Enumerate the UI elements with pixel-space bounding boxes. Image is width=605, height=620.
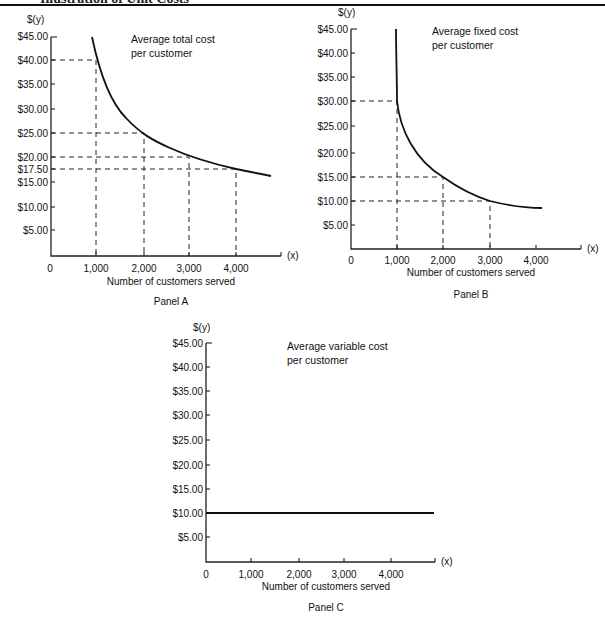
panel-c-ylabel: $(y) <box>193 322 210 333</box>
x-tick-label: 3,000 <box>176 263 201 274</box>
y-tick-label: $35.00 <box>17 79 48 90</box>
x-tick-label: 2,000 <box>430 255 455 266</box>
x-tick-label: 4,000 <box>223 263 248 274</box>
panel-b-annotation: per customer <box>432 39 494 51</box>
y-tick-label: $5.00 <box>323 220 348 231</box>
y-tick-label: $30.00 <box>172 410 203 421</box>
y-tick-label: $25.00 <box>172 435 203 446</box>
panel-c-x-axis-end-label: (x) <box>441 556 453 567</box>
panel-c-xlabel: Number of customers served <box>262 581 390 592</box>
figure-canvas: $(y) $45.00 $40.00 $35.00 $30.00 $25.00 … <box>0 0 605 620</box>
panel-b-y-tick-marks <box>351 29 357 225</box>
y-tick-label: $10.00 <box>17 202 48 213</box>
panel-c-caption: Panel C <box>308 602 344 613</box>
x-tick-label: 1,000 <box>83 263 108 274</box>
panel-a-y-ticks: $45.00 $40.00 $35.00 $30.00 $25.00 $20.0… <box>17 31 48 236</box>
panel-a-annotation: per customer <box>131 47 193 59</box>
panel-b-average-fixed-cost-curve <box>396 29 542 208</box>
panel-c-y-tick-marks <box>206 343 212 537</box>
y-tick-label: $25.00 <box>17 128 48 139</box>
x-tick-label: 4,000 <box>523 255 548 266</box>
panel-a-caption: Panel A <box>154 296 189 307</box>
y-tick-label: $20.00 <box>172 460 203 471</box>
panel-b-xlabel: Number of customers served <box>407 267 535 278</box>
x-tick-label: 0 <box>348 255 354 266</box>
y-tick-label: $25.00 <box>317 121 348 132</box>
panel-b-axes <box>351 29 581 249</box>
y-tick-label: $35.00 <box>172 386 203 397</box>
y-tick-label: $5.00 <box>178 532 203 543</box>
panel-c-axes <box>206 343 435 562</box>
y-tick-label: $45.00 <box>17 31 48 42</box>
x-tick-label: 0 <box>203 569 209 580</box>
panel-c-x-ticks: 0 1,000 2,000 3,000 4,000 Number of cust… <box>203 569 404 613</box>
y-tick-label: $45.00 <box>317 24 348 35</box>
panel-b-x-ticks: 0 1,000 2,000 3,000 4,000 Number of cust… <box>348 255 549 300</box>
y-tick-label: $17.50 <box>17 164 48 175</box>
panel-b-x-axis-end-label: (x) <box>587 243 599 254</box>
x-tick-label: 0 <box>47 263 53 274</box>
y-tick-label: $40.00 <box>17 55 48 66</box>
x-tick-label: 3,000 <box>331 569 356 580</box>
panel-b-y-ticks: $45.00 $40.00 $35.00 $30.00 $25.00 $20.0… <box>317 24 348 231</box>
x-tick-label: 3,000 <box>477 255 502 266</box>
x-tick-label: 4,000 <box>378 569 403 580</box>
panel-c-y-ticks: $45.00 $40.00 $35.00 $30.00 $25.00 $20.0… <box>172 338 203 543</box>
y-tick-label: $15.00 <box>317 172 348 183</box>
y-tick-label: $5.00 <box>23 225 48 236</box>
panel-a-annotation: Average total cost <box>131 33 215 45</box>
y-tick-label: $15.00 <box>17 177 48 188</box>
panel-b-annotation: Average fixed cost <box>432 25 518 37</box>
panel-b: $(y) $45.00 $40.00 $35.00 $30.00 $25.00 … <box>317 7 598 300</box>
y-tick-label: $30.00 <box>317 96 348 107</box>
y-tick-label: $30.00 <box>17 104 48 115</box>
panel-a: $(y) $45.00 $40.00 $35.00 $30.00 $25.00 … <box>17 14 298 307</box>
y-tick-label: $45.00 <box>172 338 203 349</box>
y-tick-label: $15.00 <box>172 484 203 495</box>
y-tick-label: $10.00 <box>172 508 203 519</box>
panel-c: $(y) $45.00 $40.00 $35.00 $30.00 $25.00 … <box>172 322 452 613</box>
x-tick-label: 2,000 <box>286 569 311 580</box>
panel-b-guide-lines <box>351 101 490 249</box>
y-tick-label: $35.00 <box>317 72 348 83</box>
panel-a-ylabel: $(y) <box>27 14 44 25</box>
x-tick-label: 2,000 <box>131 263 156 274</box>
x-tick-label: 1,000 <box>384 255 409 266</box>
panel-c-annotation: per customer <box>287 354 349 366</box>
x-tick-label: 1,000 <box>238 569 263 580</box>
panel-c-annotation: Average variable cost <box>287 340 388 352</box>
y-tick-label: $20.00 <box>17 152 48 163</box>
panel-a-guide-lines <box>51 60 236 256</box>
panel-a-xlabel: Number of customers served <box>107 276 235 287</box>
panel-b-caption: Panel B <box>453 289 488 300</box>
y-tick-label: $40.00 <box>317 48 348 59</box>
panel-a-x-axis-end-label: (x) <box>287 250 299 261</box>
y-tick-label: $20.00 <box>317 148 348 159</box>
y-tick-label: $10.00 <box>317 196 348 207</box>
panel-a-x-ticks: 0 1,000 2,000 3,000 4,000 Number of cust… <box>47 263 249 307</box>
panel-b-ylabel: $(y) <box>338 7 355 18</box>
y-tick-label: $40.00 <box>172 362 203 373</box>
